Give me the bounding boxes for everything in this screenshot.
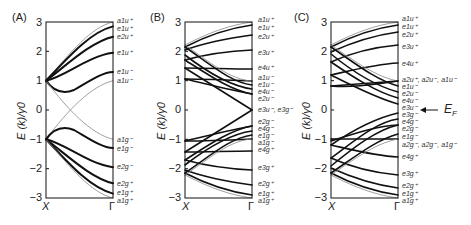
ytick: −2 [167, 162, 181, 174]
band-label: e1g⁻ [258, 132, 274, 139]
band-label: a1g⁻ [117, 136, 133, 143]
band-label: e2u⁺ [402, 31, 418, 38]
x-tick-gamma-b: Γ [248, 200, 254, 212]
band-label: e3g⁺ [402, 170, 418, 177]
band-label: e4g⁺ [258, 146, 274, 153]
ytick: 2 [28, 45, 42, 57]
fermi-arrow-icon [420, 106, 438, 114]
band-label: e1u⁻ [117, 68, 133, 75]
band-label: e4u⁺ [402, 60, 418, 67]
band-label: a1g⁺ [258, 197, 274, 204]
band-label: a1u⁻ [117, 77, 133, 84]
band-label: a1u⁺ [258, 16, 274, 23]
x-tick-x-c: X [328, 200, 335, 212]
ytick: −3 [28, 191, 42, 203]
band-label: e2g⁻ [402, 125, 418, 132]
band-label: e3u⁺ [402, 43, 418, 50]
band-label: e1u⁺ [258, 24, 274, 31]
band-label: e1g⁺ [402, 190, 418, 197]
band-label: a1g⁺ [117, 197, 133, 204]
band-label: e2g⁺ [258, 180, 274, 187]
ytick: 1 [313, 74, 327, 86]
x-tick-x-a: X [42, 200, 49, 212]
band-label: e4u⁺ [258, 64, 274, 71]
band-label: e1g⁺ [258, 190, 274, 197]
band-label: e1u⁻ [402, 83, 418, 90]
band-label: e1u⁺ [117, 49, 133, 56]
y-axis-label-a: E (k)/γ0 [15, 102, 27, 140]
ytick: 1 [167, 74, 181, 86]
band-label: e2g⁺ [402, 182, 418, 189]
band-label: e2g⁻ [258, 118, 274, 125]
fermi-level-label: EF [444, 102, 457, 118]
band-label: e2u⁻ [258, 95, 274, 102]
ytick: −1 [28, 133, 42, 145]
band-label: e3u⁻ [402, 104, 418, 111]
band-label: e2u⁻ [402, 90, 418, 97]
ytick: −1 [167, 133, 181, 145]
ytick: 3 [167, 16, 181, 28]
x-tick-gamma-c: Γ [394, 200, 400, 212]
band-label: e1u⁻ [258, 81, 274, 88]
ytick: −1 [313, 133, 327, 145]
ytick: −3 [167, 191, 181, 203]
band-label: e4u⁻ [402, 97, 418, 104]
ytick: −3 [313, 191, 327, 203]
band-label: e3u⁺ [258, 49, 274, 56]
band-label: a1u⁻ [258, 74, 274, 81]
band-label: e1u⁺ [402, 23, 418, 30]
band-label: e2g⁻ [117, 163, 133, 170]
ytick: 2 [167, 45, 181, 57]
band-label: e2g⁺ [117, 180, 133, 187]
ytick: 0 [167, 103, 181, 115]
ytick: 2 [313, 45, 327, 57]
band-label: e1u⁺ [117, 25, 133, 32]
band-plot-b [185, 22, 252, 198]
band-label: e4u⁻ [258, 88, 274, 95]
band-label: e1g⁻ [402, 133, 418, 140]
band-label: a1u⁺ [117, 17, 133, 24]
band-label: a1g⁻ [258, 139, 274, 146]
x-tick-gamma-a: Γ [109, 200, 115, 212]
band-label: e2u⁺ [258, 33, 274, 40]
band-plot-c [331, 22, 398, 198]
band-label: a1u⁺ [402, 15, 418, 22]
band-label: e3g⁺ [258, 164, 274, 171]
ytick: 0 [313, 103, 327, 115]
ytick: 3 [313, 16, 327, 28]
ytick: −2 [313, 162, 327, 174]
band-label: e1g⁺ [117, 189, 133, 196]
ytick: −2 [28, 162, 42, 174]
ytick: 1 [28, 74, 42, 86]
band-label: a2g⁻, a2g⁻, a1g⁻ [402, 141, 457, 148]
band-label: e1g⁻ [117, 145, 133, 152]
panel-letter-c: (C) [294, 11, 309, 23]
ytick: 0 [28, 103, 42, 115]
x-tick-x-b: X [182, 200, 189, 212]
band-plot-a [46, 22, 113, 198]
band-label: a1g⁺ [402, 197, 418, 204]
band-label: e4g⁻ [258, 125, 274, 132]
band-label: e4g⁻ [402, 118, 418, 125]
band-label: e3u⁻, e3g⁻ [258, 106, 293, 113]
panel-letter-a: (A) [12, 11, 27, 23]
y-axis-label-c: E (k)/γ0 [300, 102, 312, 140]
panel-letter-b: (B) [150, 11, 165, 23]
band-label: e3g⁻ [402, 111, 418, 118]
ytick: 3 [28, 16, 42, 28]
band-label: e4g⁺ [402, 153, 418, 160]
y-axis-label-b: E (k)/γ0 [155, 102, 167, 140]
band-label: e2u⁺ [117, 33, 133, 40]
band-label: a2u⁺, a2u⁻, a1u⁻ [402, 76, 457, 83]
